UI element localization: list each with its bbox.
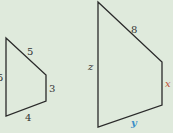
large-bottom-label: y	[130, 117, 138, 128]
small-right-label: 3	[49, 83, 55, 94]
small-top-label: 5	[27, 46, 33, 57]
small-bottom-label: 4	[25, 112, 31, 123]
large-left-label: z	[87, 61, 94, 72]
small-quadrilateral	[6, 38, 46, 116]
large-quadrilateral	[98, 2, 162, 127]
small-left-label: 5	[0, 72, 3, 83]
large-top-label: 8	[131, 24, 137, 35]
similar-figures-diagram: 5 5 3 4 z 8 x y	[0, 0, 173, 133]
large-right-label: x	[165, 78, 171, 89]
